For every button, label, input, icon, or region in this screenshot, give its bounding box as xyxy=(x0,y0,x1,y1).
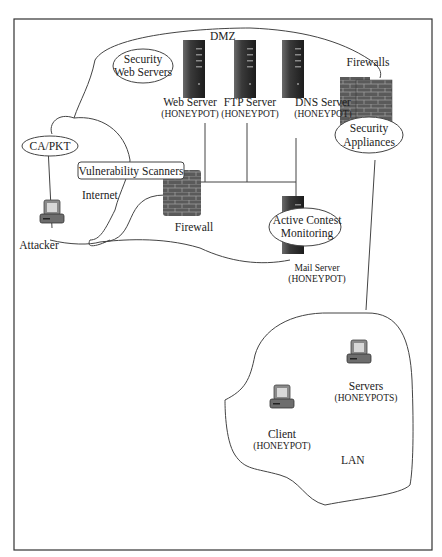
ftp-server-icon xyxy=(234,40,256,98)
callout-text: Appliances xyxy=(343,136,395,149)
node-tag: (HONEYPOT) xyxy=(221,109,279,120)
node-label: Mail Server xyxy=(294,263,340,273)
zone-label-dmz: DMZ xyxy=(210,30,236,42)
callout-text: Monitoring xyxy=(281,227,334,240)
node-label: Firewall xyxy=(175,221,213,233)
zone-label-lan: LAN xyxy=(341,454,365,466)
node-label: Firewalls xyxy=(347,56,390,68)
callout-text: Security xyxy=(350,122,389,135)
lan-boundary xyxy=(225,313,413,505)
node-tag: (HONEYPOT) xyxy=(294,109,352,120)
node-label: DNS Server xyxy=(295,96,351,108)
node-tag: (HONEYPOT) xyxy=(253,441,311,452)
zone-label-internet: Internet xyxy=(82,189,119,201)
node-label: Web Server xyxy=(163,96,217,108)
node-label: Attacker xyxy=(19,239,59,251)
client-pc-icon xyxy=(270,385,294,408)
dns-server-icon xyxy=(282,40,304,98)
web-server-icon xyxy=(183,40,205,98)
node-label: Servers xyxy=(349,380,384,392)
callout-text: CA/PKT xyxy=(30,140,71,152)
callout-text: Web Servers xyxy=(114,66,173,78)
internet-curve xyxy=(103,195,165,242)
node-label: FTP Server xyxy=(224,96,276,108)
servers-pc-icon xyxy=(347,340,371,363)
attacker-pc-icon xyxy=(40,200,64,223)
callout-text: Vulnerability Scanners xyxy=(78,165,184,178)
node-tag: (HONEYPOTS) xyxy=(335,393,398,404)
node-label: Client xyxy=(268,428,297,440)
network-diagram: DMZ Internet LAN Security Web Servers CA… xyxy=(0,0,442,557)
callout-text: Active Contest xyxy=(273,214,342,226)
node-tag: (HONEYPOT) xyxy=(288,274,346,285)
appliance-lan-link xyxy=(366,160,375,310)
callout-text: Security xyxy=(124,53,163,66)
node-tag: (HONEYPOT) xyxy=(161,109,219,120)
